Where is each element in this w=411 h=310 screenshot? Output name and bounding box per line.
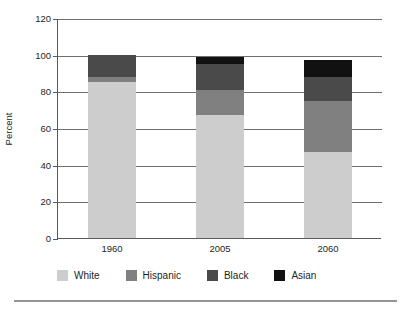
- bar-segment-asian[interactable]: [196, 57, 244, 64]
- y-axis-tick-label: 100: [35, 51, 51, 61]
- chart-legend: WhiteHispanicBlackAsian: [57, 270, 393, 281]
- y-axis-title: Percent: [3, 113, 14, 146]
- y-axis-tick-label: 60: [40, 124, 51, 134]
- legend-item-white[interactable]: White: [57, 270, 100, 281]
- y-axis-tick: [53, 202, 58, 203]
- bar-segment-black[interactable]: [304, 77, 352, 101]
- gridline: [58, 19, 382, 20]
- y-axis-tick-label: 0: [46, 234, 51, 244]
- bar-segment-black[interactable]: [88, 55, 136, 77]
- y-axis-tick: [53, 166, 58, 167]
- bar-segment-black[interactable]: [196, 64, 244, 90]
- legend-item-black[interactable]: Black: [207, 270, 248, 281]
- y-axis-tick-label: 80: [40, 88, 51, 98]
- y-axis-tick: [53, 19, 58, 20]
- legend-label: Black: [224, 270, 248, 281]
- y-axis-tick: [53, 56, 58, 57]
- x-axis-tick-label: 1960: [101, 243, 122, 254]
- bar-2005[interactable]: [196, 57, 244, 238]
- plot-area: 020406080100120196020052060: [57, 19, 381, 239]
- legend-swatch-icon: [274, 270, 285, 281]
- legend-swatch-icon: [207, 270, 218, 281]
- bar-segment-white[interactable]: [88, 82, 136, 238]
- y-axis-tick: [53, 239, 58, 240]
- bar-segment-asian[interactable]: [304, 60, 352, 77]
- x-axis-tick-label: 2005: [209, 243, 230, 254]
- legend-item-hispanic[interactable]: Hispanic: [126, 270, 181, 281]
- x-axis-tick-label: 2060: [317, 243, 338, 254]
- bar-2060[interactable]: [304, 60, 352, 238]
- legend-item-asian[interactable]: Asian: [274, 270, 316, 281]
- legend-label: Hispanic: [143, 270, 181, 281]
- legend-swatch-icon: [126, 270, 137, 281]
- y-axis-tick-label: 40: [40, 161, 51, 171]
- chart-figure: Percent 020406080100120196020052060 Whit…: [0, 0, 411, 310]
- bar-segment-hispanic[interactable]: [304, 101, 352, 152]
- y-axis-tick: [53, 92, 58, 93]
- y-axis-tick: [53, 129, 58, 130]
- legend-swatch-icon: [57, 270, 68, 281]
- y-axis-tick-label: 120: [35, 14, 51, 24]
- bar-segment-white[interactable]: [196, 115, 244, 238]
- legend-label: White: [74, 270, 100, 281]
- legend-label: Asian: [291, 270, 316, 281]
- footer-rule: [14, 300, 397, 302]
- y-axis-tick-label: 20: [40, 198, 51, 208]
- bar-segment-hispanic[interactable]: [196, 90, 244, 116]
- bar-1960[interactable]: [88, 55, 136, 238]
- bar-segment-white[interactable]: [304, 152, 352, 238]
